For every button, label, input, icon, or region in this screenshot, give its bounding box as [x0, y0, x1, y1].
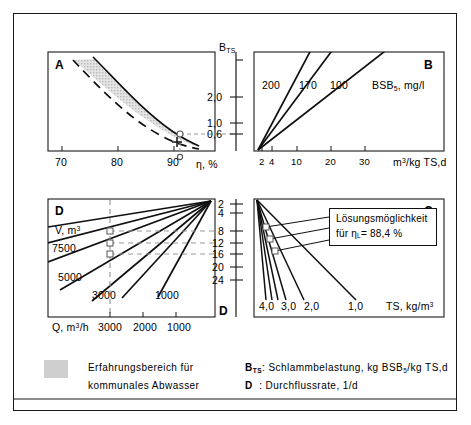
quadrant-d-xticks — [110, 312, 176, 317]
legend-def-bts: BTS: Schlammbelastung, kg BSB5/kg TS,d — [245, 363, 448, 373]
bts-axis-title: BTS — [219, 42, 235, 53]
quadrant-d-vlabel-main: V, m — [55, 224, 76, 236]
callout-line-2-pre: für η — [336, 228, 357, 239]
legend-def-bts-sym: B — [245, 362, 253, 373]
quadrant-d-xaxis-label-main: Q, m — [52, 321, 76, 333]
quadrant-b-xaxis-label: m3/kg TS,d — [393, 157, 447, 168]
curve-bsb-200 — [258, 48, 312, 150]
curve-v-c — [122, 201, 211, 298]
quadrant-c-curve-2-0: 2,0 — [304, 301, 319, 312]
quadrant-d-curve-5000: 5000 — [58, 272, 82, 283]
callout-line-2: für ηL= 88,4 % — [336, 227, 431, 242]
quadrant-b-id: B — [424, 59, 433, 71]
quadrant-a-xtick-70: 70 — [55, 157, 67, 168]
quadrant-b-series-legend-sub: 5 — [394, 85, 398, 92]
solution-callout: Lösungsmöglichkeit für ηL= 88,4 % — [329, 208, 437, 246]
quadrant-d-xaxis-label-rest: /h — [80, 321, 89, 333]
quadrant-d-xaxis-label: Q, m3/h — [52, 322, 89, 333]
quadrant-d-curve-1000: 1000 — [155, 290, 179, 301]
quadrant-b-xtick-4: 4 — [269, 157, 274, 167]
bts-ytick-2-0: 2,0 — [207, 92, 222, 103]
callout-line-2-post: = 88,4 % — [361, 228, 402, 239]
quadrant-b-series-legend-main: BSB — [372, 79, 394, 91]
quadrant-c-leader-lines — [266, 217, 329, 251]
legend-def-bts-text-post: /kg TS,d — [407, 362, 448, 373]
legend-shade-line-2: kommunales Abwasser — [88, 381, 199, 391]
quadrant-c-curve-1-0: 1,0 — [348, 301, 363, 312]
quadrant-a-xaxis-label: η, % — [196, 159, 218, 170]
d-axis-id: D — [219, 305, 228, 317]
quadrant-d-xtick-3000: 3000 — [98, 322, 122, 333]
quadrant-b-series-legend-unit: , mg/l — [398, 79, 425, 91]
quadrant-d-curve-7500: 7500 — [52, 243, 76, 254]
legend-def-d-colon: : — [259, 380, 262, 391]
quadrant-b-xtick-2: 2 — [259, 157, 264, 167]
bts-axis-title-sub: TS — [226, 47, 235, 54]
quadrant-d-box — [48, 199, 215, 317]
quadrant-d-solution-markers — [107, 228, 113, 257]
legend-def-bts-text-pre: Schlammbelastung, kg BSB — [268, 362, 403, 373]
figure-root: A 70 80 90 η, % BTS 2,0 1,0 0,6 B 200 17… — [0, 0, 471, 425]
d-axis-tick-4: 4 — [218, 208, 224, 219]
quadrant-b-curve-200: 200 — [262, 80, 280, 91]
quadrant-b-curve-100: 100 — [330, 80, 348, 91]
quadrant-b-xtick-20: 20 — [325, 157, 336, 167]
quadrant-c-xaxis-label: TS, kg/m3 — [386, 301, 434, 312]
bts-ytick-1-0: 1,0 — [207, 118, 222, 129]
quadrant-a-xtick-80: 80 — [111, 157, 123, 168]
quadrant-c-xaxis-label-sup: 3 — [430, 301, 434, 308]
legend-shade-line-1: Erfahrungsbereich für — [88, 363, 194, 373]
d-axis-tick-20: 20 — [212, 262, 224, 273]
d-axis-tick-24: 24 — [212, 275, 224, 286]
quadrant-a-xtick-90: 90 — [167, 157, 179, 168]
d-axis-tick-16: 16 — [212, 249, 224, 260]
quadrant-a-id: A — [55, 59, 64, 71]
callout-line-1: Lösungsmöglichkeit — [336, 212, 431, 227]
quadrant-d-xtick-2000: 2000 — [133, 322, 157, 333]
quadrant-d-curve-3000: 3000 — [92, 290, 116, 301]
bts-ytick-0-6: 0,6 — [207, 129, 222, 140]
quadrant-c-curve-3-0: 3,0 — [281, 301, 296, 312]
quadrant-d-vlabel-sup: 3 — [76, 225, 80, 232]
quadrant-b-series-legend: BSB5, mg/l — [372, 80, 425, 91]
quadrant-d-xaxis-label-sup: 3 — [76, 322, 80, 329]
quadrant-d-vlabel: V, m3 — [55, 225, 80, 236]
legend-def-bts-colon: : — [262, 362, 265, 373]
quadrant-a-xticks — [62, 146, 174, 151]
quadrant-d-id: D — [55, 205, 64, 217]
legend-def-bts-text-sub: 5 — [403, 367, 407, 374]
curve-v-b — [60, 201, 211, 290]
legend-def-d-sym: D — [245, 380, 253, 391]
quadrant-b-xaxis-label-rest: /kg TS,d — [406, 156, 447, 168]
quadrant-b-box — [254, 52, 444, 151]
quadrant-c-xaxis-label-main: TS, kg/m — [386, 300, 430, 312]
quadrant-b-curves — [258, 48, 389, 150]
legend-shade-swatch — [44, 360, 68, 378]
d-axis-tick-12: 12 — [212, 238, 224, 249]
quadrant-a-solution-marker — [177, 131, 183, 137]
quadrant-d-xtick-1000: 1000 — [167, 322, 191, 333]
d-axis-tick-8: 8 — [218, 226, 224, 237]
legend-def-bts-sub: TS — [253, 367, 262, 374]
legend-def-d-text: Durchflussrate, 1/d — [266, 380, 358, 391]
quadrant-b-curve-170: 170 — [299, 80, 317, 91]
legend-def-d: D : Durchflussrate, 1/d — [245, 381, 358, 391]
quadrant-b-xtick-10: 10 — [291, 157, 302, 167]
quadrant-b-xaxis-label-main: m — [393, 156, 402, 168]
quadrant-b-xtick-30: 30 — [359, 157, 370, 167]
quadrant-c-curve-4-0: 4,0 — [259, 301, 274, 312]
quadrant-b-xticks — [262, 146, 365, 151]
callout-line-2-sub: L — [357, 232, 361, 239]
quadrant-b-xaxis-label-sup: 3 — [402, 157, 406, 164]
